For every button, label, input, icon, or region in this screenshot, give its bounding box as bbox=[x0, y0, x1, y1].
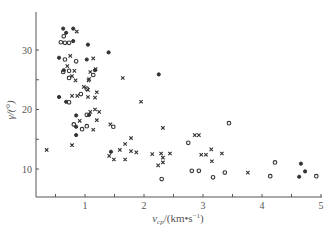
data-point-circle bbox=[211, 176, 215, 180]
data-point-cross bbox=[135, 151, 138, 154]
data-point-circle bbox=[223, 171, 227, 175]
data-point-cross bbox=[86, 88, 89, 91]
data-point-cross bbox=[139, 100, 142, 103]
x-tick-label: 5 bbox=[319, 200, 324, 211]
data-point-filled bbox=[107, 51, 110, 54]
data-point-cross bbox=[74, 79, 77, 82]
data-point-circle bbox=[227, 121, 231, 125]
data-point-cross bbox=[156, 164, 159, 167]
data-point-circle bbox=[273, 161, 277, 165]
data-point-cross bbox=[95, 119, 98, 122]
data-point-circle bbox=[67, 76, 71, 80]
data-points bbox=[45, 27, 318, 181]
data-point-circle bbox=[314, 174, 318, 178]
scatter-chart: 12345102030 γ/(°) vcp/(km•s−1) bbox=[0, 0, 331, 232]
data-point-cross bbox=[197, 133, 200, 136]
data-point-circle bbox=[67, 69, 71, 73]
y-tick-label: 30 bbox=[22, 45, 32, 56]
data-point-filled bbox=[157, 73, 160, 76]
y-axis-label: γ/(°) bbox=[4, 100, 17, 119]
data-point-circle bbox=[190, 169, 194, 173]
data-point-cross bbox=[86, 95, 89, 98]
data-point-cross bbox=[73, 69, 76, 72]
x-axis-label: vcp/(km•s−1) bbox=[152, 212, 204, 226]
data-point-circle bbox=[63, 41, 67, 45]
data-point-filled bbox=[62, 27, 65, 30]
data-point-circle bbox=[160, 177, 164, 181]
data-point-cross bbox=[210, 148, 213, 151]
data-point-circle bbox=[67, 101, 71, 105]
data-point-cross bbox=[220, 152, 223, 155]
data-point-cross bbox=[112, 158, 115, 161]
data-point-cross bbox=[210, 160, 213, 163]
data-point-circle bbox=[80, 127, 84, 131]
x-tick-label: 3 bbox=[201, 200, 206, 211]
data-point-filled bbox=[299, 162, 302, 165]
data-point-cross bbox=[151, 152, 154, 155]
data-point-filled bbox=[85, 58, 88, 61]
data-point-cross bbox=[66, 64, 69, 67]
data-point-circle bbox=[67, 41, 71, 45]
data-point-cross bbox=[89, 70, 92, 73]
data-point-cross bbox=[70, 94, 73, 97]
x-tick-label: 4 bbox=[260, 200, 265, 211]
data-point-cross bbox=[129, 149, 132, 152]
data-point-cross bbox=[161, 161, 164, 164]
data-point-filled bbox=[65, 31, 68, 34]
data-point-circle bbox=[186, 141, 190, 145]
axis-lines bbox=[36, 12, 322, 197]
data-point-filled bbox=[57, 95, 60, 98]
data-point-circle bbox=[85, 113, 89, 117]
data-point-filled bbox=[57, 56, 60, 59]
data-point-cross bbox=[204, 153, 207, 156]
data-point-cross bbox=[92, 128, 95, 131]
data-point-cross bbox=[45, 148, 48, 151]
data-point-circle bbox=[85, 124, 89, 128]
data-point-cross bbox=[70, 74, 73, 77]
data-point-filled bbox=[72, 27, 75, 30]
data-point-circle bbox=[72, 123, 76, 127]
data-point-cross bbox=[159, 152, 162, 155]
data-point-filled bbox=[298, 175, 301, 178]
data-point-cross bbox=[200, 153, 203, 156]
data-point-filled bbox=[303, 170, 306, 173]
data-point-cross bbox=[121, 76, 124, 79]
data-point-cross bbox=[69, 54, 72, 57]
data-point-cross bbox=[82, 85, 85, 88]
data-point-cross bbox=[97, 110, 100, 113]
data-point-cross bbox=[93, 108, 96, 111]
data-point-circle bbox=[91, 73, 95, 77]
data-point-cross bbox=[123, 142, 126, 145]
y-tick-label: 20 bbox=[22, 104, 32, 115]
data-point-filled bbox=[109, 150, 112, 153]
data-point-cross bbox=[107, 154, 110, 157]
data-point-cross bbox=[193, 133, 196, 136]
data-point-cross bbox=[123, 158, 126, 161]
data-point-filled bbox=[72, 39, 75, 42]
data-point-circle bbox=[79, 92, 83, 96]
data-point-cross bbox=[161, 156, 164, 159]
data-point-circle bbox=[62, 35, 66, 39]
data-point-cross bbox=[129, 136, 132, 139]
data-point-cross bbox=[246, 171, 249, 174]
x-tick-label: 1 bbox=[83, 200, 88, 211]
data-point-filled bbox=[86, 43, 89, 46]
data-point-circle bbox=[268, 174, 272, 178]
data-point-cross bbox=[92, 57, 95, 60]
data-point-cross bbox=[95, 91, 98, 94]
data-point-cross bbox=[93, 96, 96, 99]
data-point-cross bbox=[76, 94, 79, 97]
data-point-cross bbox=[89, 110, 92, 113]
data-point-cross bbox=[70, 144, 73, 147]
data-point-filled bbox=[75, 114, 78, 117]
data-point-cross bbox=[168, 152, 171, 155]
data-point-filled bbox=[75, 133, 78, 136]
data-point-circle bbox=[74, 60, 78, 64]
data-point-cross bbox=[78, 119, 81, 122]
data-point-circle bbox=[63, 58, 67, 62]
data-point-circle bbox=[59, 40, 63, 44]
data-point-cross bbox=[75, 30, 78, 33]
x-tick-label: 2 bbox=[142, 200, 147, 211]
data-point-circle bbox=[197, 169, 201, 173]
data-point-cross bbox=[109, 123, 112, 126]
